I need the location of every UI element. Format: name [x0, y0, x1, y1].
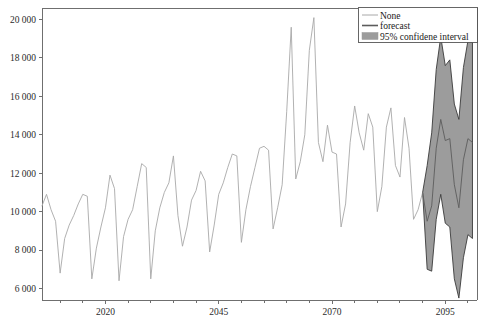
y-tick-label: 6 000	[15, 284, 37, 294]
x-tick-label: 2020	[96, 307, 115, 317]
chart-figure: 6 0008 00010 00012 00014 00016 00018 000…	[0, 0, 488, 327]
y-tick-label: 16 000	[10, 92, 36, 102]
forecast-line-chart: 6 0008 00010 00012 00014 00016 00018 000…	[0, 0, 488, 327]
legend-item-label: None	[380, 11, 401, 21]
chart-legend: Noneforecast95% confidene interval	[358, 7, 477, 42]
y-tick-label: 14 000	[10, 130, 36, 140]
x-tick-label: 2045	[209, 307, 228, 317]
y-tick-label: 20 000	[10, 15, 36, 25]
y-tick-label: 12 000	[10, 169, 36, 179]
y-tick-label: 8 000	[15, 245, 37, 255]
x-tick-label: 2070	[323, 307, 342, 317]
legend-item-label: 95% confidene interval	[380, 32, 469, 42]
y-tick-label: 10 000	[10, 207, 36, 217]
chart-background	[0, 0, 488, 327]
legend-swatch-patch	[362, 33, 378, 40]
y-tick-label: 18 000	[10, 53, 36, 63]
x-tick-label: 2095	[436, 307, 455, 317]
legend-item-label: forecast	[380, 21, 410, 31]
